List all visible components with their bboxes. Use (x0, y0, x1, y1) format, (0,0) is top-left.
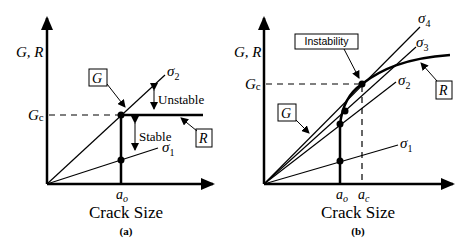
stable-label: Stable (139, 129, 172, 144)
instability-label: Instability (305, 35, 350, 47)
sigma3-point (342, 108, 349, 115)
sigma1-point (118, 157, 125, 164)
sigma2-line (264, 82, 396, 184)
sigma2-point (337, 121, 344, 128)
g-pointer-arrow (296, 120, 309, 133)
panel-caption: (b) (351, 225, 365, 238)
x-axis-label: Crack Size (321, 203, 395, 222)
sigma1-line (47, 148, 158, 184)
a0-label: ao (336, 187, 348, 204)
r-pointer-arrow (421, 63, 437, 81)
gc-point (118, 112, 125, 119)
g-box-label: G (281, 106, 291, 121)
x-axis-label: Crack Size (89, 203, 163, 222)
r-pointer-arrow (181, 118, 197, 131)
sigma3-label: σ3 (416, 34, 428, 53)
diagram-canvas: G, R Gc σ2 σ1 ao Unstable Stable G R Cr (0, 0, 471, 252)
sigma1-label: σ1 (400, 135, 412, 154)
panel-b: G, R Gc σ4 σ3 σ2 σ1 ao ac Instability G (234, 10, 453, 238)
sigma1-point (337, 158, 344, 165)
panel-a: G, R Gc σ2 σ1 ao Unstable Stable G R Cr (16, 18, 213, 238)
sigma2-label: σ2 (167, 63, 179, 82)
gc-label: Gc (245, 76, 261, 92)
ac-label: ac (358, 187, 370, 204)
gc-label: Gc (28, 107, 44, 123)
instability-pointer-arrow (344, 49, 359, 78)
panel-caption: (a) (120, 225, 133, 238)
unstable-label: Unstable (158, 92, 204, 107)
y-axis-label: G, R (16, 44, 44, 60)
instability-point (359, 81, 366, 88)
r-box-label: R (198, 131, 208, 146)
y-axis-label: G, R (234, 44, 262, 60)
g-pointer-arrow (107, 84, 125, 107)
sigma2-label: σ2 (398, 72, 410, 91)
sigma4-label: σ4 (418, 10, 430, 29)
a0-label: ao (116, 187, 128, 204)
g-box-label: G (92, 71, 102, 86)
r-curve (340, 55, 450, 184)
r-box-label: R (438, 83, 448, 98)
